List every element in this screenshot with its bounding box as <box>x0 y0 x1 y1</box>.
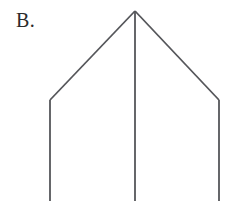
figure-drawing <box>0 0 226 201</box>
figure-panel: B. <box>0 0 226 201</box>
right-diagonal-line <box>135 11 219 100</box>
left-diagonal-line <box>50 11 135 100</box>
